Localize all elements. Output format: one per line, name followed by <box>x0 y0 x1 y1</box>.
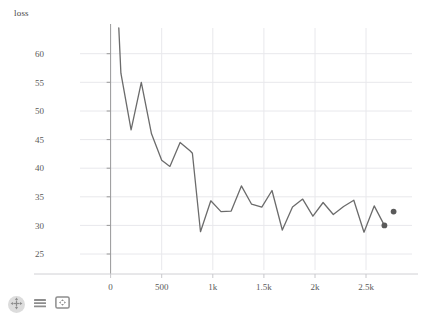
y-tick-label: 60 <box>35 49 45 59</box>
series-line[interactable] <box>119 28 385 232</box>
y-axis-tick-labels: 2530354045505560 <box>35 49 111 259</box>
list-tool-button[interactable] <box>31 296 48 313</box>
y-tick-label: 45 <box>35 135 45 145</box>
axis-lines-group <box>34 24 418 274</box>
move-arrows-icon <box>10 296 23 314</box>
x-tick-label: 500 <box>155 282 169 292</box>
x-tick-label: 1.5k <box>256 282 272 292</box>
y-tick-label: 55 <box>35 78 45 88</box>
y-tick-label: 40 <box>35 163 45 173</box>
x-tick-label: 2.5k <box>358 282 374 292</box>
chart-plot-area[interactable]: 2530354045505560 05001k1.5k2k2.5k <box>0 0 423 295</box>
data-series-group[interactable] <box>119 28 385 232</box>
menu-lines-icon <box>33 296 47 314</box>
loss-chart-card: loss 2530354045505560 05001k1.5k2k2.5k <box>0 0 423 327</box>
expand-icon <box>55 295 70 314</box>
y-tick-label: 30 <box>35 221 45 231</box>
x-tick-label: 0 <box>108 282 113 292</box>
data-point-marker[interactable] <box>391 209 397 215</box>
x-tick-label: 1k <box>208 282 218 292</box>
gridlines-group <box>80 28 412 270</box>
fullscreen-tool-button[interactable] <box>54 296 71 313</box>
x-tick-label: 2k <box>311 282 321 292</box>
data-point-marker[interactable] <box>382 223 388 229</box>
y-tick-label: 35 <box>35 192 45 202</box>
y-tick-label: 25 <box>35 249 45 259</box>
pan-tool-button[interactable] <box>8 296 25 313</box>
x-axis-tick-labels: 05001k1.5k2k2.5k <box>108 274 374 292</box>
chart-toolbar[interactable] <box>8 296 71 313</box>
y-tick-label: 50 <box>35 106 45 116</box>
